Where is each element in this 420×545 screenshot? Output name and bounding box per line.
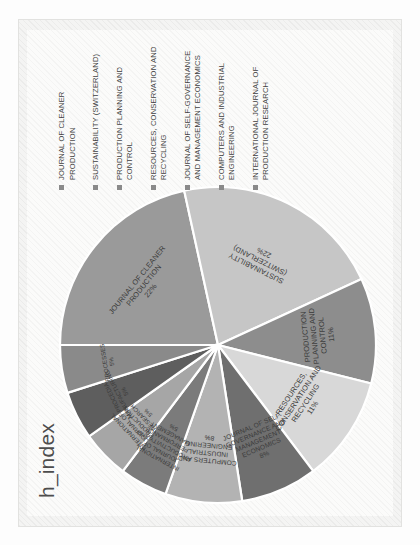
legend-item: PRODUCTION PLANNING AND CONTROL bbox=[115, 42, 136, 190]
scanned-page: h_index JOURNAL OF CLEANERPRODUCTION22%S… bbox=[0, 0, 420, 545]
legend-square-marker-icon bbox=[93, 185, 98, 190]
figure-panel: h_index JOURNAL OF CLEANERPRODUCTION22%S… bbox=[27, 30, 393, 516]
legend-item: SUSTAINABILITY (SWITZERLAND) bbox=[91, 42, 102, 190]
legend-item: JOURNAL OF CLEANER PRODUCTION bbox=[57, 42, 78, 190]
legend-item: RESOURCES, CONSERVATION AND RECYCLING bbox=[149, 42, 170, 190]
legend-item-label: JOURNAL OF CLEANER PRODUCTION bbox=[57, 42, 78, 180]
legend-square-marker-icon bbox=[185, 185, 190, 190]
legend-item-label: PRODUCTION PLANNING AND CONTROL bbox=[115, 42, 136, 180]
legend-square-marker-icon bbox=[151, 185, 156, 190]
legend-item: COMPUTERS AND INDUSTRIAL ENGINEERING bbox=[217, 42, 238, 190]
pie-slice-label-line: 11% bbox=[326, 326, 336, 342]
legend-square-marker-icon bbox=[219, 185, 224, 190]
legend-square-marker-icon bbox=[253, 185, 258, 190]
pie-chart-svg: JOURNAL OF CLEANERPRODUCTION22%SUSTAINAB… bbox=[53, 180, 383, 510]
legend-item-label: JOURNAL OF SELF-GOVERNANCE AND MANAGEMEN… bbox=[183, 42, 204, 180]
figure-frame: h_index JOURNAL OF CLEANERPRODUCTION22%S… bbox=[18, 19, 402, 527]
pie-chart: JOURNAL OF CLEANERPRODUCTION22%SUSTAINAB… bbox=[53, 180, 383, 510]
legend-item-label: RESOURCES, CONSERVATION AND RECYCLING bbox=[149, 42, 170, 180]
legend-item-label: COMPUTERS AND INDUSTRIAL ENGINEERING bbox=[217, 42, 238, 180]
legend-item: INTERNATIONAL JOURNAL OF PRODUCTION RESE… bbox=[251, 42, 272, 190]
legend-item-label: SUSTAINABILITY (SWITZERLAND) bbox=[91, 53, 102, 179]
legend-square-marker-icon bbox=[59, 185, 64, 190]
legend-item-label: INTERNATIONAL JOURNAL OF PRODUCTION RESE… bbox=[251, 42, 272, 180]
legend-square-marker-icon bbox=[117, 185, 122, 190]
legend-item: JOURNAL OF SELF-GOVERNANCE AND MANAGEMEN… bbox=[183, 42, 204, 190]
chart-legend: JOURNAL OF CLEANER PRODUCTIONSUSTAINABIL… bbox=[57, 42, 285, 190]
